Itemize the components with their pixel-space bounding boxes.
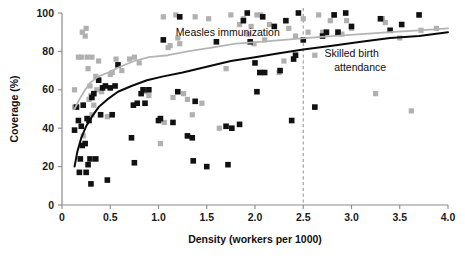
data-point	[254, 89, 260, 95]
x-axis-title: Density (workers per 1000)	[188, 233, 322, 245]
x-tick-label: 2.5	[296, 211, 311, 223]
data-point	[87, 156, 93, 162]
data-point	[78, 156, 84, 162]
chart-canvas: 02040608010000.51.01.52.02.53.03.54.0Mea…	[0, 0, 465, 258]
data-point	[328, 18, 333, 23]
data-point	[103, 83, 109, 89]
data-point	[85, 66, 90, 71]
x-axis-ticks: 00.51.01.52.02.53.03.54.0	[59, 205, 455, 223]
data-point	[286, 26, 291, 31]
y-tick-label: 80	[42, 45, 54, 57]
data-point	[260, 14, 266, 20]
data-point	[237, 122, 243, 128]
data-point	[378, 16, 384, 22]
data-point	[262, 70, 268, 76]
data-point	[277, 68, 283, 74]
x-tick-label: 1.0	[151, 211, 166, 223]
data-point	[82, 141, 88, 147]
data-point	[83, 33, 88, 38]
y-tick-label: 60	[42, 83, 54, 95]
data-point	[177, 14, 183, 20]
trend-measles-curve	[75, 28, 448, 109]
data-point	[83, 170, 89, 176]
data-point	[229, 125, 235, 131]
data-point	[85, 162, 91, 168]
data-point	[158, 141, 163, 146]
data-point	[167, 43, 172, 48]
data-point	[72, 127, 78, 133]
data-point	[132, 55, 137, 60]
data-point	[204, 164, 210, 170]
data-point	[132, 160, 138, 166]
annotation-skilled-birth-attendance: Skilled birth	[324, 47, 378, 59]
data-point	[399, 22, 405, 28]
data-point	[214, 39, 220, 45]
data-point	[252, 60, 258, 66]
data-point	[119, 68, 124, 73]
data-point	[190, 112, 195, 117]
data-point	[76, 118, 82, 124]
data-point	[244, 10, 250, 16]
data-point	[289, 118, 295, 124]
y-tick-label: 40	[42, 122, 54, 134]
data-point	[105, 177, 111, 183]
data-point	[72, 87, 77, 92]
data-point	[206, 16, 211, 21]
data-point	[199, 101, 204, 106]
data-point	[296, 10, 302, 16]
data-point	[305, 30, 310, 35]
data-point	[84, 26, 89, 31]
data-point	[98, 112, 104, 118]
data-point	[84, 55, 89, 60]
data-point	[79, 123, 85, 129]
data-point	[170, 120, 176, 126]
x-tick-label: 3.0	[344, 211, 359, 223]
data-point	[146, 93, 151, 98]
data-point	[181, 91, 186, 96]
data-point	[343, 10, 349, 16]
data-point	[161, 37, 167, 43]
y-axis-title: Coverage (%)	[8, 75, 20, 142]
data-point	[312, 104, 318, 110]
data-point	[127, 56, 132, 61]
data-point	[158, 116, 164, 122]
y-axis-ticks: 020406080100	[36, 7, 62, 211]
data-point	[107, 85, 113, 91]
data-point	[217, 126, 222, 131]
data-point	[241, 18, 247, 24]
data-point	[175, 89, 181, 95]
data-point	[409, 108, 414, 113]
data-point	[293, 52, 299, 58]
data-point	[91, 91, 97, 97]
data-point	[79, 55, 84, 60]
data-point	[225, 162, 231, 168]
data-point	[89, 55, 94, 60]
data-point	[80, 102, 86, 108]
data-point	[185, 133, 191, 139]
x-tick-label: 2.0	[248, 211, 263, 223]
data-point	[142, 100, 148, 106]
data-point	[96, 58, 101, 63]
data-point	[192, 99, 198, 105]
x-tick-label: 3.5	[392, 211, 407, 223]
data-point	[88, 181, 94, 187]
data-point	[257, 70, 263, 76]
data-point	[416, 12, 422, 18]
data-point	[140, 87, 146, 93]
data-point	[373, 91, 378, 96]
data-point	[77, 170, 83, 176]
data-point	[281, 58, 286, 63]
data-point	[91, 103, 96, 108]
data-point	[129, 135, 135, 141]
x-tick-label: 0	[59, 211, 65, 223]
data-point	[331, 12, 337, 18]
data-point	[190, 158, 196, 164]
data-point	[134, 100, 140, 106]
data-point	[189, 135, 195, 141]
data-point	[349, 24, 355, 30]
data-point	[383, 20, 388, 25]
scatter-chart-figure: 02040608010000.51.01.52.02.53.03.54.0Mea…	[0, 0, 465, 258]
data-point	[161, 14, 166, 19]
data-point	[223, 66, 228, 71]
data-point	[109, 112, 115, 118]
